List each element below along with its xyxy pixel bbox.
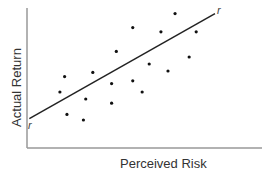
data-point xyxy=(173,12,176,15)
x-axis-label: Perceived Risk xyxy=(120,156,207,171)
data-point xyxy=(91,71,94,74)
y-axis-label: Actual Return xyxy=(9,38,24,138)
plot-area xyxy=(0,0,263,179)
trend-line xyxy=(29,14,215,119)
data-point xyxy=(141,90,144,93)
data-point xyxy=(131,79,134,82)
data-point xyxy=(188,55,191,58)
data-point xyxy=(115,50,118,53)
data-point xyxy=(159,30,162,33)
data-point xyxy=(166,69,169,72)
data-point xyxy=(110,102,113,105)
data-point xyxy=(131,26,134,29)
data-point xyxy=(148,62,151,65)
data-point xyxy=(63,75,66,78)
data-point xyxy=(110,82,113,85)
line-start-label: r xyxy=(28,119,32,131)
line-end-label: r xyxy=(217,4,221,16)
data-point xyxy=(195,30,198,33)
data-points xyxy=(58,12,197,122)
data-point xyxy=(58,90,61,93)
scatter-chart: Actual Return Perceived Risk r r xyxy=(0,0,263,179)
data-point xyxy=(84,97,87,100)
data-point xyxy=(82,118,85,121)
data-point xyxy=(65,113,68,116)
